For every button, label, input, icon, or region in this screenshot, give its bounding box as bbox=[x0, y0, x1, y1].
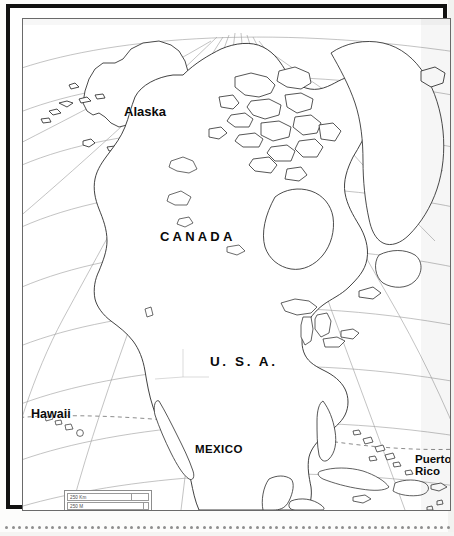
bottom-perforation-dot-row bbox=[0, 523, 454, 532]
perforation-dot bbox=[12, 526, 15, 529]
perforation-dot bbox=[282, 526, 285, 529]
perforation-dot bbox=[249, 526, 252, 529]
perforation-dot bbox=[302, 526, 305, 529]
scale-bar-km-label: 250 Km bbox=[70, 494, 86, 502]
perforation-dot bbox=[117, 526, 120, 529]
perforation-dot bbox=[31, 526, 34, 529]
perforation-dot bbox=[308, 526, 311, 529]
perforation-dot bbox=[104, 526, 107, 529]
perforation-dot bbox=[5, 526, 8, 529]
perforation-dot bbox=[45, 526, 48, 529]
perforation-dot bbox=[447, 526, 450, 529]
map-label-puerto-rico-line1: Puerto bbox=[415, 453, 451, 465]
perforation-dot bbox=[64, 526, 67, 529]
perforation-dot bbox=[78, 526, 81, 529]
perforation-dot bbox=[401, 526, 404, 529]
map-neatline-frame: Alaska CANADA U. S. A. MEXICO Hawaii Pue… bbox=[22, 18, 451, 511]
perforation-dot bbox=[368, 526, 371, 529]
map-label-mexico: MEXICO bbox=[195, 443, 243, 455]
map-outer-frame: Alaska CANADA U. S. A. MEXICO Hawaii Pue… bbox=[6, 4, 447, 509]
perforation-dot bbox=[394, 526, 397, 529]
perforation-dot bbox=[328, 526, 331, 529]
perforation-dot bbox=[407, 526, 410, 529]
perforation-dot bbox=[216, 526, 219, 529]
page-edge-shading-bottom bbox=[0, 532, 454, 536]
perforation-dot bbox=[203, 526, 206, 529]
scale-bar-mi-label: 250 M bbox=[70, 503, 83, 511]
perforation-dot bbox=[137, 526, 140, 529]
perforation-dot bbox=[348, 526, 351, 529]
north-america-map-graphic bbox=[23, 19, 450, 510]
map-label-puerto-rico-line2: Rico bbox=[415, 465, 451, 477]
perforation-dot bbox=[71, 526, 74, 529]
perforation-dot bbox=[58, 526, 61, 529]
perforation-dot bbox=[440, 526, 443, 529]
perforation-dot bbox=[51, 526, 54, 529]
map-label-puerto-rico: Puerto Rico bbox=[415, 453, 451, 477]
map-label-alaska: Alaska bbox=[124, 105, 166, 119]
scale-bar-kilometers-row: 250 Km bbox=[67, 493, 149, 501]
perforation-dot bbox=[124, 526, 127, 529]
map-scale-bar: 250 Km 250 M bbox=[64, 490, 152, 511]
map-label-canada: CANADA bbox=[160, 230, 236, 244]
perforation-dot bbox=[427, 526, 430, 529]
perforation-dot bbox=[289, 526, 292, 529]
perforation-dot bbox=[374, 526, 377, 529]
perforation-dot bbox=[381, 526, 384, 529]
perforation-dot bbox=[170, 526, 173, 529]
perforation-dot bbox=[111, 526, 114, 529]
perforation-dot bbox=[209, 526, 212, 529]
perforation-dot bbox=[176, 526, 179, 529]
scale-bar-km-tick bbox=[131, 493, 132, 501]
map-label-usa: U. S. A. bbox=[210, 355, 278, 369]
map-page: Alaska CANADA U. S. A. MEXICO Hawaii Pue… bbox=[0, 0, 454, 536]
perforation-dot bbox=[236, 526, 239, 529]
perforation-dot bbox=[229, 526, 232, 529]
perforation-dot bbox=[262, 526, 265, 529]
perforation-dot bbox=[25, 526, 28, 529]
perforation-dot bbox=[275, 526, 278, 529]
perforation-dot bbox=[341, 526, 344, 529]
perforation-dot bbox=[322, 526, 325, 529]
perforation-dot bbox=[387, 526, 390, 529]
perforation-dot bbox=[143, 526, 146, 529]
perforation-dot bbox=[315, 526, 318, 529]
perforation-dot bbox=[91, 526, 94, 529]
perforation-dot bbox=[38, 526, 41, 529]
perforation-dot bbox=[354, 526, 357, 529]
perforation-dot bbox=[190, 526, 193, 529]
map-label-hawaii: Hawaii bbox=[31, 408, 71, 421]
perforation-dot bbox=[242, 526, 245, 529]
perforation-dot bbox=[18, 526, 21, 529]
perforation-dot bbox=[183, 526, 186, 529]
perforation-dot bbox=[414, 526, 417, 529]
perforation-dot bbox=[420, 526, 423, 529]
scale-bar-miles-row: 250 M bbox=[67, 502, 149, 510]
perforation-dot bbox=[163, 526, 166, 529]
perforation-dot bbox=[295, 526, 298, 529]
perforation-dot bbox=[335, 526, 338, 529]
perforation-dot bbox=[157, 526, 160, 529]
perforation-dot bbox=[361, 526, 364, 529]
perforation-dot bbox=[150, 526, 153, 529]
perforation-dot bbox=[223, 526, 226, 529]
scale-bar-mi-tick bbox=[143, 502, 144, 510]
perforation-dot bbox=[196, 526, 199, 529]
perforation-dot bbox=[434, 526, 437, 529]
perforation-dot bbox=[130, 526, 133, 529]
perforation-dot bbox=[269, 526, 272, 529]
perforation-dot bbox=[97, 526, 100, 529]
perforation-dot bbox=[256, 526, 259, 529]
perforation-dot bbox=[84, 526, 87, 529]
